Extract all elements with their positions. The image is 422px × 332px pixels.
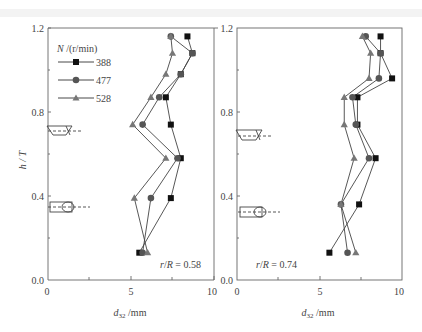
series-line-528	[133, 36, 173, 252]
right-y-tick-0.0: 0.0	[221, 275, 234, 286]
series-line-388	[329, 36, 392, 252]
legend-label-477: 477	[96, 75, 111, 86]
legend-title: N /(r/min)	[56, 43, 97, 55]
y-axis-label: h / T	[17, 149, 28, 169]
right-y-tick-0.8: 0.8	[221, 107, 234, 118]
circle-marker-icon	[376, 75, 383, 82]
circle-marker-icon	[156, 94, 163, 101]
chart-figure: 1.2 0.8 0.4 0.0 0 5 10 1.2 0.8 0.4 0.0 0…	[0, 0, 422, 332]
square-marker-icon	[389, 75, 395, 81]
left-y-tick-0.4: 0.4	[32, 191, 45, 202]
lower-impeller-icon	[48, 202, 90, 212]
circle-marker-icon	[178, 71, 185, 78]
left-x-tick-5: 5	[129, 286, 134, 297]
triangle-marker-icon	[129, 121, 136, 127]
circle-marker-icon	[349, 94, 356, 101]
triangle-marker-icon	[367, 49, 374, 55]
triangle-marker-icon	[147, 94, 154, 100]
circle-marker-icon	[189, 50, 196, 57]
square-marker-icon	[168, 195, 174, 201]
triangle-marker-icon	[351, 154, 358, 160]
left-x-axis-label: d32 /mm	[114, 307, 147, 320]
upper-impeller-icon-right	[236, 130, 272, 140]
triangle-marker-icon	[73, 95, 80, 101]
square-marker-icon	[163, 94, 169, 100]
series-line-477	[341, 36, 381, 252]
left-panel	[48, 28, 214, 280]
right-y-tick-1.2: 1.2	[221, 23, 234, 34]
triangle-marker-icon	[162, 70, 169, 76]
right-x-axis-label: d32 /mm	[302, 307, 335, 320]
left-x-tick-0: 0	[45, 286, 50, 297]
triangle-marker-icon	[169, 49, 176, 55]
circle-marker-icon	[344, 249, 351, 256]
series-line-528	[341, 36, 371, 252]
right-y-tick-0.4: 0.4	[221, 191, 234, 202]
circle-marker-icon	[73, 77, 80, 84]
legend: N /(r/min) 388 477 528	[56, 43, 111, 104]
left-y-tick-1.2: 1.2	[32, 23, 45, 34]
triangle-marker-icon	[341, 121, 348, 127]
circle-marker-icon	[366, 155, 373, 162]
right-x-tick-0: 0	[235, 286, 240, 297]
square-marker-icon	[356, 201, 362, 207]
square-marker-icon	[326, 250, 332, 256]
triangle-marker-icon	[365, 75, 372, 81]
square-marker-icon	[184, 33, 190, 39]
left-rR-annotation: r/R = 0.58	[160, 259, 201, 270]
circle-marker-icon	[377, 50, 384, 57]
legend-label-528: 528	[96, 93, 111, 104]
right-rR-annotation: r/R = 0.74	[256, 259, 297, 270]
left-y-tick-0.0: 0.0	[32, 275, 45, 286]
square-marker-icon	[168, 122, 174, 128]
data-series	[129, 33, 395, 256]
left-x-tick-10: 10	[207, 286, 217, 297]
upper-impeller-icon	[47, 126, 82, 135]
triangle-marker-icon	[341, 94, 348, 100]
square-marker-icon	[73, 59, 79, 65]
circle-marker-icon	[353, 121, 360, 128]
circle-marker-icon	[174, 155, 181, 162]
lower-impeller-icon-right	[238, 207, 280, 217]
right-x-tick-10: 10	[394, 286, 404, 297]
circle-marker-icon	[148, 195, 155, 202]
left-y-tick-0.8: 0.8	[32, 107, 45, 118]
square-marker-icon	[373, 155, 379, 161]
square-marker-icon	[378, 33, 384, 39]
right-x-tick-5: 5	[318, 286, 323, 297]
triangle-marker-icon	[352, 249, 359, 255]
circle-marker-icon	[139, 121, 146, 128]
legend-label-388: 388	[96, 57, 111, 68]
